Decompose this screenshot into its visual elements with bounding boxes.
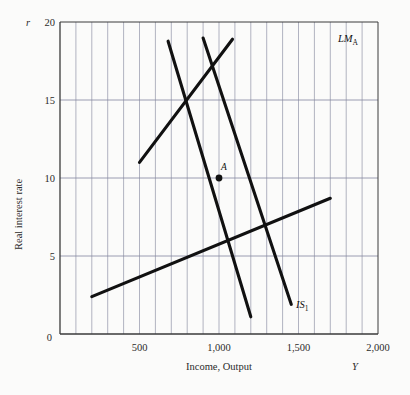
ytick-5: 5 [50, 251, 55, 262]
chart-svg: r 20 15 10 5 0 Real interest rate 500 1,… [0, 0, 410, 395]
x-axis-title: Income, Output [186, 361, 252, 372]
ytick-0: 0 [47, 332, 52, 343]
curve-label-lm-a-sub: A [353, 38, 359, 47]
xtick-1000: 1,000 [207, 342, 231, 353]
point-a-marker [216, 175, 223, 182]
x-axis-variable: Y [352, 361, 359, 372]
xtick-500: 500 [132, 342, 148, 353]
y-axis-variable: r [26, 17, 31, 28]
xtick-2000: 2,000 [366, 342, 390, 353]
curve-label-lm-a-main: LM [337, 33, 354, 44]
y-axis-title: Real interest rate [13, 179, 24, 250]
xtick-1500: 1,500 [287, 342, 311, 353]
ytick-15: 15 [45, 95, 56, 106]
point-a-label: A [220, 162, 227, 172]
curve-label-is-1-sub: 1 [305, 304, 309, 313]
is-lm-chart-figure: r 20 15 10 5 0 Real interest rate 500 1,… [0, 0, 410, 395]
ytick-20: 20 [45, 17, 56, 28]
ytick-10: 10 [45, 173, 56, 184]
